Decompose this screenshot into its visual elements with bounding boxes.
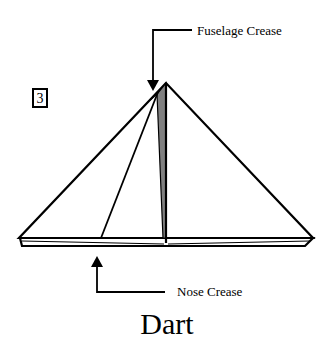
folded-triangle	[19, 83, 313, 243]
arrow-down-icon	[147, 80, 159, 91]
fuselage-crease-arrow: Fuselage Crease	[147, 23, 282, 91]
nose-crease-label: Nose Crease	[177, 284, 243, 299]
origami-diagram: 3 Fuselage Crease Nose Crease Dart	[0, 0, 331, 353]
diagram-title: Dart	[140, 307, 194, 340]
step-number-badge: 3	[33, 89, 47, 107]
step-number: 3	[37, 91, 44, 106]
fuselage-crease-label: Fuselage Crease	[197, 23, 282, 38]
nose-crease-arrow: Nose Crease	[91, 256, 243, 299]
arrow-up-icon	[91, 256, 103, 267]
